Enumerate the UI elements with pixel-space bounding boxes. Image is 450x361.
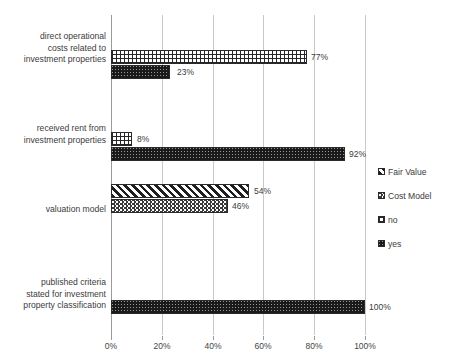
x-tick-label-0: 0% <box>91 341 131 351</box>
category-label-line: property classification <box>0 300 106 312</box>
bar-chart: 0% 20% 40% 60% 80% 100% direct operation… <box>0 0 450 361</box>
legend-label-cost-model: Cost Model <box>388 191 431 201</box>
bar-received-rent-yes <box>111 147 345 161</box>
x-tick-80 <box>314 336 315 340</box>
category-label-line: stated for investment <box>0 289 106 301</box>
category-label-line: investment properties <box>0 54 106 66</box>
bar-direct-operational-costs-yes <box>111 65 170 79</box>
x-tick-20 <box>162 336 163 340</box>
bar-value-23: 23% <box>177 65 194 79</box>
x-tick-60 <box>263 336 264 340</box>
category-label-line: costs related to <box>0 43 106 55</box>
x-tick-label-100: 100% <box>345 341 385 351</box>
chart-legend: Fair Value Cost Model no yes <box>378 168 450 264</box>
gridline-100 <box>365 15 366 335</box>
legend-item-fair-value[interactable]: Fair Value <box>378 168 450 177</box>
bar-direct-operational-costs-no <box>111 50 307 64</box>
bar-valuation-model-cost-model <box>111 199 228 213</box>
x-tick-0 <box>111 336 112 340</box>
category-label-valuation-model: valuation model <box>0 204 106 216</box>
bar-value-100: 100% <box>369 300 391 314</box>
category-label-line: investment properties <box>0 135 106 147</box>
legend-item-cost-model[interactable]: Cost Model <box>378 192 450 201</box>
category-label-line: received rent from <box>0 123 106 135</box>
bar-value-8: 8% <box>137 132 149 146</box>
category-label-line: published criteria <box>0 277 106 289</box>
bar-value-54: 54% <box>254 184 271 198</box>
bar-value-92: 92% <box>349 147 366 161</box>
legend-swatch-no-icon <box>378 216 385 223</box>
legend-swatch-yes-icon <box>378 240 385 247</box>
x-tick-100 <box>365 336 366 340</box>
category-label-line: direct operational <box>0 31 106 43</box>
bar-value-77: 77% <box>311 50 328 64</box>
legend-label-no: no <box>388 215 398 225</box>
bar-valuation-model-fair-value <box>111 184 249 198</box>
bar-received-rent-no <box>111 132 132 146</box>
x-tick-label-40: 40% <box>193 341 233 351</box>
legend-item-yes[interactable]: yes <box>378 240 450 249</box>
legend-label-fair-value: Fair Value <box>388 167 427 177</box>
x-tick-label-80: 80% <box>294 341 334 351</box>
legend-label-yes: yes <box>388 239 401 249</box>
legend-swatch-fair-value-icon <box>378 168 385 175</box>
category-label-direct-operational-costs: direct operational costs related to inve… <box>0 31 106 66</box>
category-label-received-rent: received rent from investment properties <box>0 123 106 146</box>
legend-swatch-cost-model-icon <box>378 192 385 199</box>
bar-published-criteria-yes <box>111 300 365 314</box>
category-label-line: valuation model <box>0 204 106 216</box>
legend-item-no[interactable]: no <box>378 216 450 225</box>
x-tick-label-20: 20% <box>142 341 182 351</box>
category-label-published-criteria: published criteria stated for investment… <box>0 277 106 312</box>
bar-value-46: 46% <box>232 199 249 213</box>
x-tick-label-60: 60% <box>243 341 283 351</box>
x-tick-40 <box>213 336 214 340</box>
